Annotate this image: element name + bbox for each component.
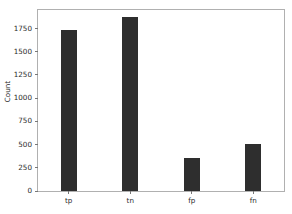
y-axis-tick-label: 0 (0, 185, 32, 197)
bar-fn (245, 144, 261, 191)
bar-series (38, 10, 284, 191)
x-axis-tick-mark (68, 191, 69, 194)
bar-fp (184, 158, 200, 191)
x-axis-tick-mark (253, 191, 254, 194)
y-axis-tick-label: 500 (0, 139, 32, 151)
y-axis-tick-label: 250 (0, 162, 32, 174)
x-axis-tick-label: tn (110, 196, 150, 206)
x-axis-tick-label: fn (233, 196, 273, 206)
x-axis-tick-mark (130, 191, 131, 194)
x-axis-tick-label: tp (49, 196, 89, 206)
bar-chart-figure: Count 02505007501000125015001750 tptnfpf… (0, 0, 292, 214)
y-axis-tick-label: 1500 (0, 46, 32, 58)
y-axis-tick-label: 1750 (0, 23, 32, 35)
plot-area: 02505007501000125015001750 tptnfpfn (37, 9, 285, 192)
x-axis-tick-label: fp (172, 196, 212, 206)
y-axis-tick-label: 1000 (0, 92, 32, 104)
y-axis-tick-label: 750 (0, 115, 32, 127)
x-axis-tick-mark (191, 191, 192, 194)
bar-tn (122, 17, 138, 192)
y-axis-tick-label: 1250 (0, 69, 32, 81)
bar-tp (61, 30, 77, 191)
